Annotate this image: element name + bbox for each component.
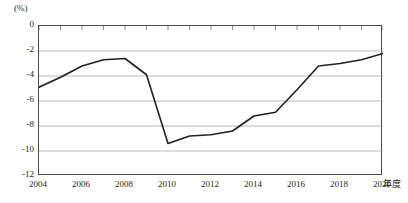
y-axis-tick-label: -10 — [4, 145, 34, 154]
x-axis-tick-label: 2008 — [104, 180, 144, 189]
x-axis-tick-label: 2004 — [18, 180, 58, 189]
x-axis-tick-label: 2012 — [190, 180, 230, 189]
x-axis-tick-label: 2016 — [276, 180, 316, 189]
gridlines — [39, 51, 383, 151]
y-axis-tick-label: 0 — [4, 20, 34, 29]
y-axis-tick-label: -12 — [4, 170, 34, 179]
x-axis-minor-ticks — [39, 26, 383, 30]
data-series-line — [39, 54, 383, 144]
plot-svg — [39, 26, 383, 176]
x-axis-tick-label: 2018 — [319, 180, 359, 189]
x-axis-title: 年度 — [383, 180, 401, 189]
line-chart: (%) 0-2-4-6-8-10-12 20042006200820102012… — [0, 0, 408, 203]
y-axis-tick-label: -6 — [4, 95, 34, 104]
x-axis-tick-label: 2006 — [61, 180, 101, 189]
y-axis-tick-label: -4 — [4, 70, 34, 79]
x-axis-tick-label: 2014 — [233, 180, 273, 189]
plot-area — [38, 25, 382, 175]
y-axis-tick-labels: 0-2-4-6-8-10-12 — [0, 0, 34, 203]
y-axis-tick-label: -8 — [4, 120, 34, 129]
x-axis-tick-label: 2010 — [147, 180, 187, 189]
y-axis-tick-label: -2 — [4, 45, 34, 54]
